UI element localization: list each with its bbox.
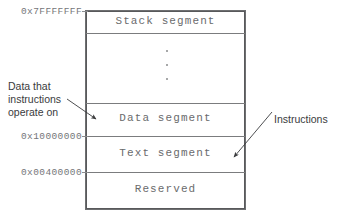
address-label-reserved-top: 0x00400000 [8, 167, 82, 178]
address-tick-reserved-top [82, 172, 88, 173]
divider-text-top [86, 136, 245, 137]
annotation-instructions: Instructions [274, 113, 328, 126]
divider-reserved-top [86, 172, 245, 173]
annotation-left-line-2: instructions [8, 93, 61, 106]
address-tick-stack-top [82, 11, 88, 12]
annotation-left-line-3: operate on [8, 106, 61, 119]
divider-stack-bottom [86, 33, 245, 34]
segment-label-data: Data segment [86, 112, 245, 124]
ellipsis-dot [166, 78, 168, 80]
segment-label-stack: Stack segment [86, 15, 245, 27]
annotation-right-line-1: Instructions [274, 113, 328, 126]
memory-box [86, 11, 245, 209]
ellipsis-dot [166, 64, 168, 66]
vertical-ellipsis-icon [160, 50, 174, 80]
address-label-stack-top: 0x7FFFFFFF [8, 6, 82, 17]
address-label-text-top: 0x10000000 [8, 131, 82, 142]
annotation-left-line-1: Data that [8, 80, 61, 93]
ellipsis-dot [166, 50, 168, 52]
segment-label-text: Text segment [86, 147, 245, 159]
memory-layout-diagram: Stack segment Data segment Text segment … [0, 0, 345, 220]
segment-label-reserved: Reserved [86, 183, 245, 195]
address-tick-text-top [82, 136, 88, 137]
annotation-data-operand: Data that instructions operate on [8, 80, 61, 119]
divider-data-top [86, 103, 245, 104]
